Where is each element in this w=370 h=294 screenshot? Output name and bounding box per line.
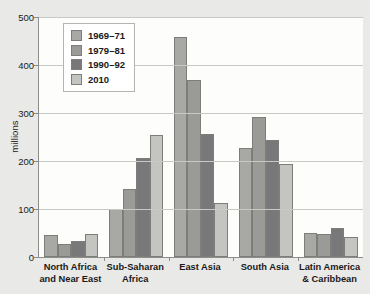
bar <box>266 140 280 257</box>
x-axis-group-tick <box>233 257 234 261</box>
legend-swatch <box>71 30 82 41</box>
y-tick-label: 100 <box>4 204 34 215</box>
legend-label: 1969–71 <box>88 30 125 41</box>
bar <box>214 203 228 257</box>
bar <box>136 158 150 257</box>
y-axis-tick-labels: 0100200300400500 <box>0 0 34 294</box>
bar <box>201 134 215 257</box>
y-tick-label: 200 <box>4 156 34 167</box>
bar <box>71 241 85 257</box>
legend-swatch <box>71 45 82 56</box>
x-axis-group-tick <box>298 257 299 261</box>
legend-item: 1979–81 <box>71 45 125 56</box>
x-axis-category-labels: North Africaand Near EastSub-SaharanAfri… <box>38 262 362 285</box>
y-tick-label: 400 <box>4 60 34 71</box>
legend-item: 1969–71 <box>71 30 125 41</box>
gridline <box>39 113 363 114</box>
bar <box>123 189 137 257</box>
x-axis-category-label: Sub-SaharanAfrica <box>103 262 168 285</box>
legend-label: 2010 <box>88 74 109 85</box>
legend: 1969–711979–811990–922010 <box>63 23 135 92</box>
grouped-bar-chart: millions 0100200300400500 North Africaan… <box>0 0 370 294</box>
legend-item: 1990–92 <box>71 59 125 70</box>
legend-item: 2010 <box>71 74 125 85</box>
x-axis-category-label: North Africaand Near East <box>38 262 103 285</box>
y-tick-label: 500 <box>4 12 34 23</box>
bar <box>85 234 99 257</box>
bar-group <box>169 17 234 257</box>
x-axis-group-tick <box>169 257 170 261</box>
bar <box>331 228 345 257</box>
bar <box>344 237 358 257</box>
bar <box>304 233 318 257</box>
legend-swatch <box>71 59 82 70</box>
bar <box>58 244 72 257</box>
bar <box>150 135 164 257</box>
x-axis-category-label: Latin America& Caribbean <box>297 262 362 285</box>
x-axis-category-label: East Asia <box>168 262 233 285</box>
bar-group <box>298 17 363 257</box>
legend-label: 1990–92 <box>88 59 125 70</box>
bar <box>109 209 123 257</box>
bar <box>174 37 188 257</box>
legend-swatch <box>71 74 82 85</box>
x-axis-category-label: South Asia <box>232 262 297 285</box>
bar <box>317 234 331 257</box>
gridline <box>39 209 363 210</box>
bar-group <box>233 17 298 257</box>
bar <box>239 148 253 257</box>
legend-label: 1979–81 <box>88 45 125 56</box>
bar <box>279 164 293 257</box>
bar <box>252 117 266 257</box>
y-tick-label: 0 <box>4 252 34 263</box>
bar <box>187 80 201 257</box>
x-axis-group-tick <box>104 257 105 261</box>
y-tick-label: 300 <box>4 108 34 119</box>
gridline <box>39 161 363 162</box>
gridline <box>39 17 363 18</box>
bar <box>44 235 58 257</box>
